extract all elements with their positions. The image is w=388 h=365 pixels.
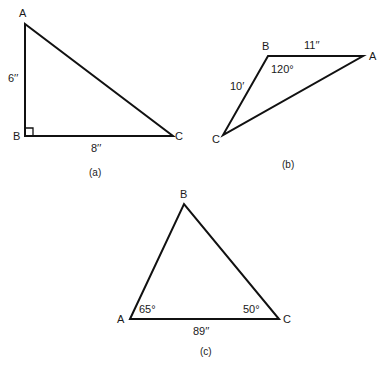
triangle-a-shape [25,24,173,136]
caption-a: (a) [89,167,101,178]
vertex-a-label: A [19,7,27,19]
caption-c: (c) [200,346,212,357]
vertex-a-label: A [117,313,125,325]
angle-c-label: 50° [243,303,260,315]
vertex-c-label: C [283,313,291,325]
vertex-b-label: B [180,188,187,200]
side-bc-label: 10′ [230,80,244,92]
triangle-b: B A C 11′′ 10′ 120° (b) [212,39,377,170]
triangle-c: B A C 65° 50° 89′′ (c) [117,188,291,357]
angle-b-label: 120° [271,63,294,75]
triangle-a: A B C 6′′ 8′′ (a) [8,7,183,178]
vertex-c-label: C [175,130,183,142]
vertex-b-label: B [262,40,269,52]
side-ab-label: 6′′ [8,72,18,84]
side-ac-label: 89′′ [193,325,209,337]
side-ba-label: 11′′ [304,39,320,51]
triangles-diagram: A B C 6′′ 8′′ (a) B A C 11′′ 10′ 120° (b… [0,0,388,365]
right-angle-marker [25,128,33,136]
side-bc-label: 8′′ [91,142,101,154]
angle-a-label: 65° [139,303,156,315]
triangle-c-shape [130,204,279,319]
vertex-b-label: B [13,130,20,142]
vertex-a-label: A [369,50,377,62]
caption-b: (b) [282,159,294,170]
vertex-c-label: C [212,133,220,145]
